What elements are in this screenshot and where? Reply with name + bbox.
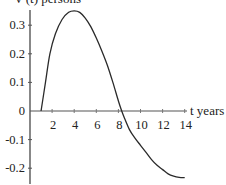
x-tick-label: 8: [116, 118, 122, 132]
x-tick-label: 4: [72, 118, 79, 132]
y-axis-title: V'(t) persons: [14, 0, 81, 6]
x-tick-label: 2: [50, 118, 56, 132]
x-tick-label: 12: [157, 118, 170, 132]
y-tick-label: 0: [19, 104, 25, 118]
y-tick-label: 0.1: [9, 75, 25, 89]
y-tick-label: -0.2: [5, 161, 25, 175]
axes: [30, 10, 187, 184]
y-ticks: -0.2-0.100.10.20.3: [5, 18, 32, 175]
data-curve: [41, 11, 185, 178]
x-tick-label: 14: [179, 118, 192, 132]
x-tick-label: 6: [94, 118, 100, 132]
y-tick-label: -0.1: [5, 133, 25, 147]
chart: V'(t) persons -0.2-0.100.10.20.3 2468101…: [0, 0, 226, 185]
x-ticks: 2468101214: [50, 109, 193, 132]
x-axis-title: t years: [190, 103, 224, 118]
x-tick-label: 10: [135, 118, 148, 132]
y-tick-label: 0.3: [9, 18, 25, 32]
y-tick-label: 0.2: [9, 47, 25, 61]
